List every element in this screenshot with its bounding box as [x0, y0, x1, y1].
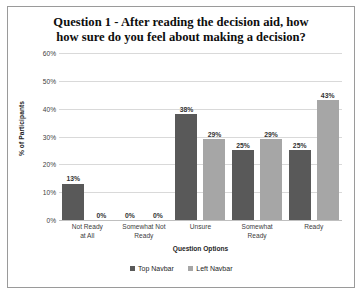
- bar-slot: 29%: [203, 53, 225, 220]
- x-axis-tick-label: Ready: [285, 223, 342, 240]
- bar-slot: 25%: [232, 53, 254, 220]
- bar-value-label: 29%: [264, 131, 278, 138]
- bar[interactable]: [203, 139, 225, 220]
- bar-value-label: 29%: [208, 131, 222, 138]
- y-axis-title: % of Participants: [18, 94, 25, 164]
- bar-value-label: 38%: [180, 106, 194, 113]
- bar-value-label: 25%: [293, 142, 307, 149]
- y-axis-tick-labels: 0%10%20%30%40%50%60%: [34, 53, 56, 220]
- bar-group: 13%0%: [59, 53, 116, 220]
- x-axis-tick-label: Somewhat NotReady: [116, 223, 173, 240]
- bar-groups: 13%0%0%0%38%29%25%29%25%43%: [59, 53, 342, 220]
- chart-title: Question 1 - After reading the decision …: [18, 15, 344, 45]
- legend-item[interactable]: Top Navbar: [130, 265, 174, 272]
- legend-swatch-icon: [130, 266, 136, 272]
- legend-swatch-icon: [188, 266, 194, 272]
- bar[interactable]: [62, 184, 84, 220]
- bar-group: 25%29%: [229, 53, 286, 220]
- bar-group: 25%43%: [285, 53, 342, 220]
- axis-baseline: [59, 220, 342, 221]
- bar-value-label: 13%: [66, 175, 80, 182]
- chart-title-line-2: how sure do you feel about making a deci…: [18, 30, 344, 45]
- bar-value-label: 0%: [153, 212, 163, 219]
- x-axis-tick-label: Not Readyat All: [59, 223, 116, 240]
- bar[interactable]: [317, 100, 339, 220]
- chart-legend: Top NavbarLeft Navbar: [18, 265, 344, 272]
- bar-slot: 0%: [119, 53, 141, 220]
- y-axis-tick-label: 0%: [34, 217, 56, 224]
- y-axis-tick-label: 10%: [34, 189, 56, 196]
- x-axis-tick-labels: Not Readyat AllSomewhat NotReadyUnsureSo…: [59, 223, 342, 240]
- legend-label: Left Navbar: [196, 265, 232, 272]
- y-axis-tick-label: 40%: [34, 105, 56, 112]
- y-axis-tick-label: 50%: [34, 77, 56, 84]
- bar[interactable]: [232, 150, 254, 220]
- bar-value-label: 25%: [236, 142, 250, 149]
- bar-group: 0%0%: [116, 53, 173, 220]
- y-axis-tick-label: 60%: [34, 50, 56, 57]
- bar[interactable]: [289, 150, 311, 220]
- bar[interactable]: [260, 139, 282, 220]
- bar-slot: 0%: [147, 53, 169, 220]
- x-axis-tick-label: Unsure: [172, 223, 229, 240]
- legend-label: Top Navbar: [138, 265, 174, 272]
- x-axis-tick-label: SomewhatReady: [229, 223, 286, 240]
- bar[interactable]: [175, 114, 197, 220]
- bar-value-label: 43%: [321, 92, 335, 99]
- bar-slot: 25%: [289, 53, 311, 220]
- bar-slot: 0%: [90, 53, 112, 220]
- legend-item[interactable]: Left Navbar: [188, 265, 233, 272]
- bar-slot: 29%: [260, 53, 282, 220]
- bar-value-label: 0%: [125, 212, 135, 219]
- y-axis-tick-label: 30%: [34, 133, 56, 140]
- chart-title-line-1: Question 1 - After reading the decision …: [18, 15, 344, 30]
- y-axis-tick-label: 20%: [34, 161, 56, 168]
- bar-group: 38%29%: [172, 53, 229, 220]
- bar-slot: 43%: [317, 53, 339, 220]
- bar-slot: 38%: [175, 53, 197, 220]
- plot-area: 13%0%0%0%38%29%25%29%25%43%: [59, 53, 342, 220]
- bar-value-label: 0%: [96, 212, 106, 219]
- bar-slot: 13%: [62, 53, 84, 220]
- x-axis-title: Question Options: [59, 245, 342, 252]
- chart-container: Question 1 - After reading the decision …: [7, 6, 355, 288]
